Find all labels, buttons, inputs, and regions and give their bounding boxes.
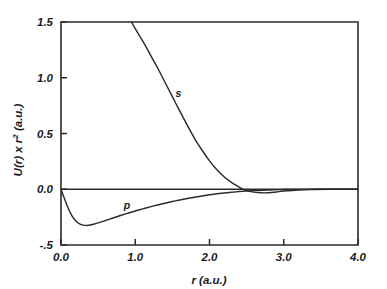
line-chart: 0.01.02.03.04.0 -.50.00.51.01.5 sp r (a.…	[0, 0, 387, 289]
data-curves	[61, 22, 358, 225]
x-tick-labels: 0.01.02.03.04.0	[53, 251, 367, 263]
x-axis-title: r (a.u.)	[191, 274, 226, 286]
x-tick-label: 2.0	[201, 251, 219, 263]
x-tick-label: 0.0	[53, 251, 70, 263]
y-tick-labels: -.50.00.51.01.5	[37, 16, 54, 251]
y-tick-label: 0.5	[37, 128, 54, 140]
axis-frame	[61, 22, 358, 245]
x-tick-label: 4.0	[349, 251, 367, 263]
y-tick-label: 1.5	[37, 16, 54, 28]
figure-container: 0.01.02.03.04.0 -.50.00.51.01.5 sp r (a.…	[0, 0, 387, 289]
y-axis-title-base: U(r) x r	[12, 138, 24, 176]
x-tick-label: 3.0	[276, 251, 293, 263]
curve-annotation-p: p	[123, 199, 131, 211]
tick-marks	[61, 22, 358, 245]
plot-frame	[61, 22, 358, 245]
y-axis-title-units: (a.u.)	[12, 103, 24, 134]
curve-annotation-s: s	[175, 87, 181, 99]
y-axis-title: U(r) x r2 (a.u.)	[11, 103, 24, 176]
x-tick-label: 1.0	[127, 251, 144, 263]
y-tick-label: 0.0	[37, 183, 54, 195]
y-axis-title-text: U(r) x r2 (a.u.)	[11, 103, 24, 176]
y-tick-label: -.5	[40, 239, 54, 251]
y-tick-label: 1.0	[37, 72, 54, 84]
curve-annotations: sp	[123, 87, 182, 212]
curve-s	[132, 22, 358, 193]
curve-p	[61, 189, 358, 225]
